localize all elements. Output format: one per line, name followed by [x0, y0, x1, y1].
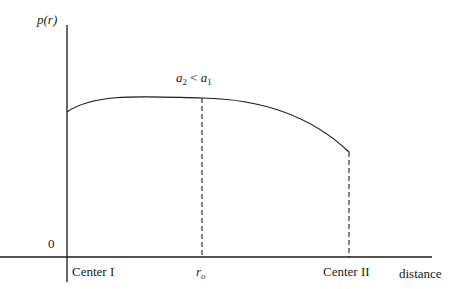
tick-r0-sub: o	[201, 271, 206, 281]
annotation-relation: <	[187, 70, 201, 85]
tick-center2: Center II	[323, 264, 370, 280]
y-axis-label: p(r)	[37, 12, 57, 28]
diagram-canvas	[0, 0, 461, 289]
probability-curve	[67, 97, 349, 152]
origin-label: 0	[48, 236, 55, 252]
x-axis-label: distance	[399, 266, 442, 282]
annotation-sub-right: 1	[207, 77, 212, 87]
annotation-a2-lt-a1: a2 < a1	[176, 70, 212, 87]
tick-r0: ro	[196, 264, 206, 281]
tick-center1: Center I	[72, 264, 114, 280]
